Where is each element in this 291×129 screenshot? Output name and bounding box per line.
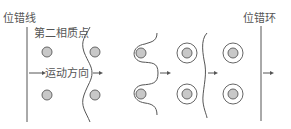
label-second-phase-particle: 第二相质点 xyxy=(34,26,89,40)
particle xyxy=(228,89,238,99)
particle xyxy=(90,47,100,57)
motion-arrow-head xyxy=(99,71,103,75)
particle xyxy=(90,90,100,100)
wrapping-dislocation-line xyxy=(134,33,158,115)
particle xyxy=(136,89,146,99)
particle xyxy=(136,48,146,58)
stage-loops-left xyxy=(177,33,218,118)
label-dislocation-loop: 位错环 xyxy=(243,11,276,25)
motion-arrow-head xyxy=(270,71,274,75)
advancing-dislocation-line xyxy=(203,33,207,118)
particle xyxy=(182,48,192,58)
label-motion-direction: 运动方向 xyxy=(45,66,89,80)
stage-passed xyxy=(223,26,274,121)
dislocation-bypass-diagram: 位错线 第二相质点 位错环 运动方向 xyxy=(0,0,291,129)
particle xyxy=(42,47,52,57)
motion-arrow-head xyxy=(167,71,171,75)
label-dislocation-line: 位错线 xyxy=(3,11,36,25)
particle xyxy=(228,48,238,58)
motion-arrow-head xyxy=(214,71,218,75)
stage-wrapping xyxy=(134,33,171,115)
particle xyxy=(42,90,52,100)
particle xyxy=(182,89,192,99)
